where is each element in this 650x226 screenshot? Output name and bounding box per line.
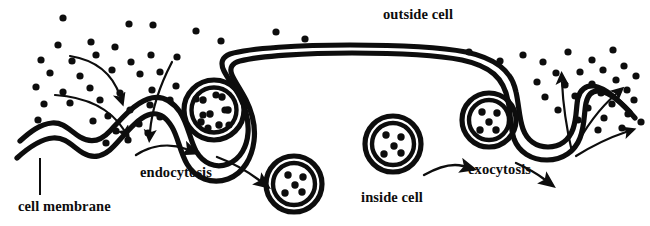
label-outside-cell: outside cell [383,7,453,22]
label-endocytosis: endocytosis [140,165,212,180]
budding-vesicle [184,80,244,140]
label-cell-membrane: cell membrane [18,199,111,214]
exocytosis-arrow-1 [424,165,463,175]
diagram-canvas [0,0,650,226]
cell-transport-diagram: outside cell inside cell cell membrane e… [0,0,650,226]
label-inside-cell: inside cell [361,190,423,205]
label-exocytosis: exocytosis [468,162,531,177]
